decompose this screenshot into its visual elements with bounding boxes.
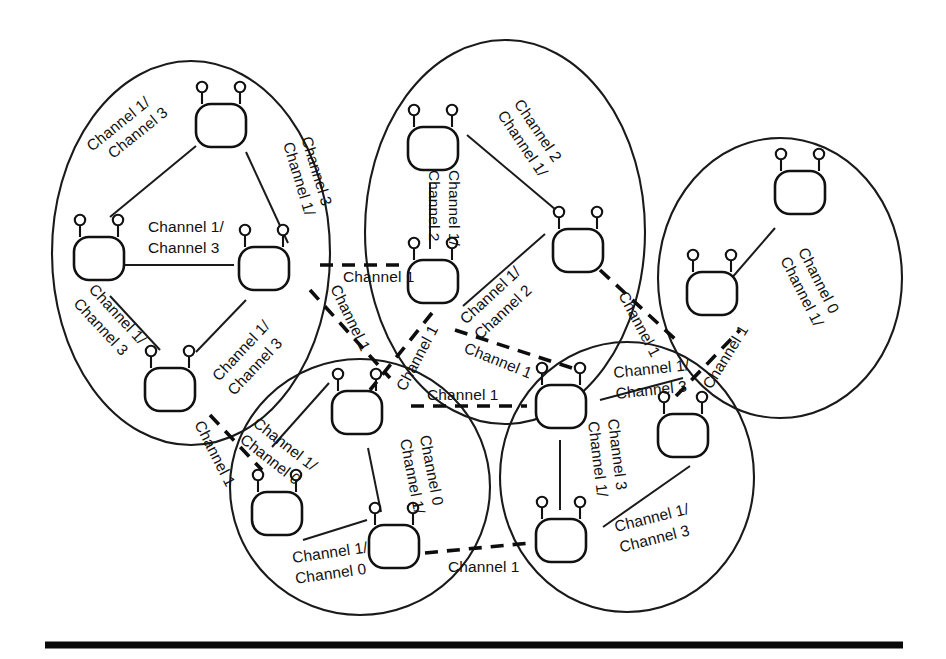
intra-link-left-a	[110, 146, 196, 217]
node-bottomright-2[interactable]	[658, 392, 708, 457]
label-inter-left-topcenter: Channel 1	[343, 268, 415, 285]
label-br-top-line2: Channel 3	[615, 377, 688, 401]
labels-right-cluster: Channel 1/ Channel 0	[777, 245, 845, 330]
node-left-2[interactable]	[196, 82, 246, 147]
network-diagram: Channel 1/ Channel 3 Channel 1/ Channel …	[0, 0, 946, 659]
inter-link-bottomleft-low	[425, 543, 530, 553]
label-inter-left-lower-diag: Channel 1	[191, 418, 239, 489]
node-topcenter-3[interactable]	[553, 207, 603, 272]
label-inter-left-diag: Channel 1	[327, 282, 374, 354]
label-tc-vertical-line2: Channel 2	[426, 170, 443, 242]
label-inter-bottomleft-low: Channel 1	[448, 558, 520, 575]
intra-link-bl-lower	[303, 520, 367, 540]
label-left-mid-line2: Channel 3	[148, 239, 220, 256]
diagram-canvas: Channel 1/ Channel 3 Channel 1/ Channel …	[0, 0, 946, 659]
label-inter-bottomright-right: Channel 1	[699, 322, 751, 392]
node-bottomright-1[interactable]	[536, 363, 586, 428]
label-tc-vertical-line1: Channel 1/	[446, 170, 463, 247]
node-topcenter-1[interactable]	[408, 105, 458, 170]
label-left-mid-line1: Channel 1/	[148, 218, 225, 235]
node-bottomleft-1[interactable]	[332, 369, 382, 434]
label-inter-bottomleft-bottomright: Channel 1	[427, 386, 499, 403]
node-right-2[interactable]	[687, 250, 737, 315]
node-topcenter-2[interactable]	[408, 238, 458, 303]
node-left-4[interactable]	[145, 346, 195, 411]
node-right-1[interactable]	[775, 149, 825, 214]
node-left-3[interactable]	[239, 225, 289, 290]
node-left-1[interactable]	[74, 215, 124, 280]
